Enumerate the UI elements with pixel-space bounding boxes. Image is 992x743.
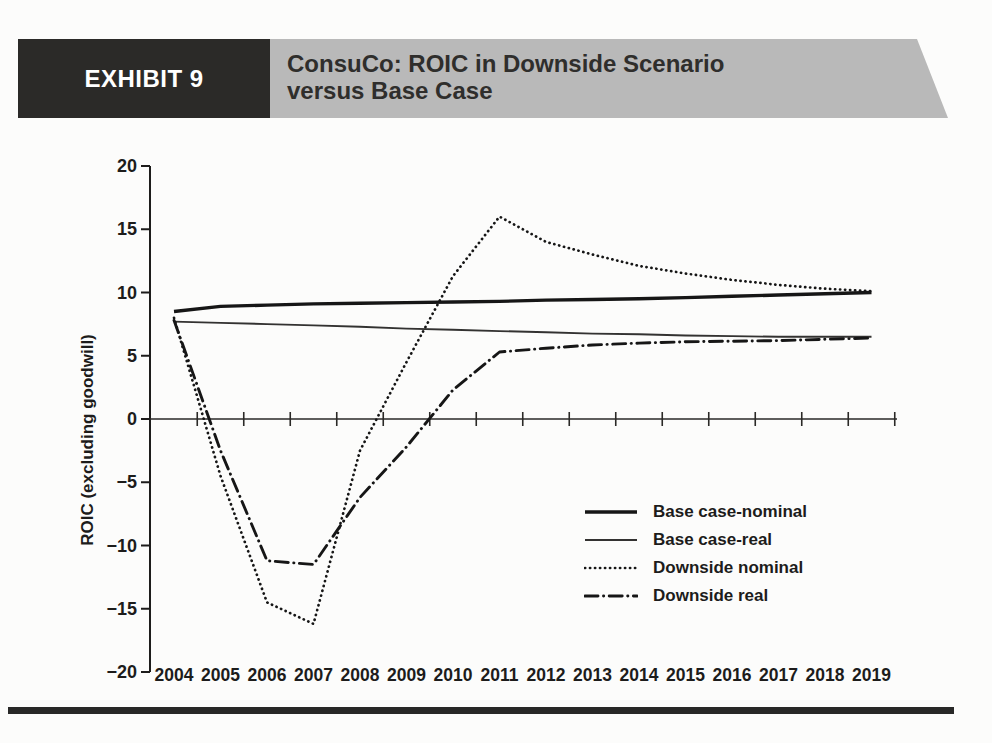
x-tick-label: 2017 bbox=[759, 665, 798, 685]
legend-label: Base case-real bbox=[653, 530, 772, 550]
x-tick-label: 2013 bbox=[573, 665, 612, 685]
x-tick-label: 2005 bbox=[201, 665, 240, 685]
y-tick-label: 15 bbox=[117, 219, 137, 239]
y-tick-label: −10 bbox=[106, 536, 137, 556]
x-tick-label: 2006 bbox=[248, 665, 287, 685]
y-tick-label: −5 bbox=[116, 472, 137, 492]
exhibit-page: EXHIBIT 9 ConsuCo: ROIC in Downside Scen… bbox=[0, 0, 992, 743]
x-tick-label: 2014 bbox=[620, 665, 659, 685]
y-tick-label: −20 bbox=[106, 662, 137, 682]
legend-swatch-dotted bbox=[584, 562, 638, 574]
bottom-rule bbox=[8, 707, 954, 714]
y-axis-title: ROIC (excluding goodwill) bbox=[78, 334, 98, 546]
x-tick-label: 2009 bbox=[387, 665, 426, 685]
x-tick-label: 2008 bbox=[341, 665, 380, 685]
y-tick-label: 0 bbox=[127, 409, 137, 429]
legend-label: Base case-nominal bbox=[653, 502, 807, 522]
x-tick-label: 2018 bbox=[806, 665, 845, 685]
legend-item-base-case-nominal: Base case-nominal bbox=[584, 498, 807, 526]
chart-legend: Base case-nominalBase case-realDownside … bbox=[584, 498, 807, 610]
y-tick-label: 5 bbox=[127, 346, 137, 366]
y-tick-label: −15 bbox=[106, 599, 137, 619]
x-tick-label: 2019 bbox=[852, 665, 891, 685]
roic-line-chart: 20151050−5−10−15−20200420052006200720082… bbox=[0, 0, 992, 743]
legend-item-downside-real: Downside real bbox=[584, 582, 807, 610]
x-tick-label: 2010 bbox=[434, 665, 473, 685]
series-base-case-real bbox=[174, 322, 872, 337]
x-tick-label: 2011 bbox=[481, 665, 519, 685]
x-tick-label: 2015 bbox=[666, 665, 705, 685]
legend-item-downside-nominal: Downside nominal bbox=[584, 554, 807, 582]
x-tick-label: 2004 bbox=[155, 665, 194, 685]
legend-label: Downside real bbox=[653, 586, 768, 606]
x-tick-label: 2012 bbox=[527, 665, 566, 685]
y-tick-label: 20 bbox=[117, 156, 137, 176]
x-tick-label: 2016 bbox=[713, 665, 752, 685]
series-base-case-nominal bbox=[174, 293, 872, 312]
legend-swatch-dashdot bbox=[584, 590, 638, 602]
legend-item-base-case-real: Base case-real bbox=[584, 526, 807, 554]
y-tick-label: 10 bbox=[117, 283, 137, 303]
legend-swatch-solid-thick bbox=[584, 506, 638, 518]
x-tick-label: 2007 bbox=[294, 665, 333, 685]
legend-swatch-solid-thin bbox=[584, 534, 638, 546]
legend-label: Downside nominal bbox=[653, 558, 803, 578]
